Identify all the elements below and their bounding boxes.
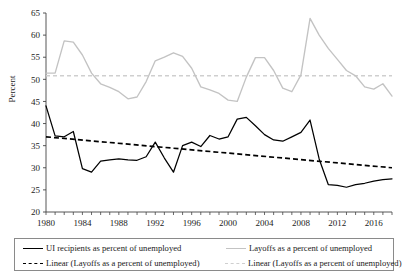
y-tick-label: 55 [31, 52, 41, 62]
legend-row-2: Linear (Layoffs as a percent of unemploy… [15, 256, 393, 271]
legend-row-1: UI recipients as percent of unemployed L… [15, 241, 393, 256]
legend-item-linear-layoffs: Linear (Layoffs as a percent of unemploy… [225, 259, 393, 268]
y-axis-title: Percent [7, 59, 17, 119]
legend-label-linear-ui: Linear (Layoffs as a percent of unemploy… [46, 259, 200, 268]
y-tick-label: 50 [31, 75, 41, 85]
chart-figure: Percent 65605550454035302520198019841988… [0, 0, 410, 277]
x-tick-label: 1984 [73, 218, 92, 228]
x-tick-label: 1988 [110, 218, 129, 228]
legend-label-linear-layoffs: Linear (Layoffs as a percent of unemploy… [248, 259, 402, 268]
x-tick-label: 2016 [365, 218, 384, 228]
y-tick-label: 60 [31, 30, 41, 40]
legend-swatch-solid-gray-icon [226, 248, 246, 249]
legend-label-layoffs: Layoffs as a percent of unemployed [249, 244, 372, 253]
x-tick-label: 2012 [328, 218, 346, 228]
legend-label-ui-recipients: UI recipients as percent of unemployed [46, 244, 181, 253]
y-tick-label: 35 [31, 141, 41, 151]
y-tick-label: 65 [31, 8, 41, 18]
y-tick-label: 20 [31, 207, 41, 217]
y-tick-label: 30 [31, 163, 41, 173]
y-tick-label: 45 [31, 97, 41, 107]
trendline-ui-recipients [46, 137, 392, 168]
line-chart: 6560555045403530252019801984198819921996… [0, 0, 410, 232]
y-tick-label: 25 [31, 185, 41, 195]
x-tick-label: 1996 [183, 218, 202, 228]
x-tick-label: 2008 [292, 218, 311, 228]
x-tick-label: 1980 [37, 218, 56, 228]
legend-swatch-dashed-black-icon [23, 263, 43, 264]
legend-swatch-dashed-gray-icon [225, 263, 245, 264]
series-line-layoffs [46, 18, 392, 101]
legend-item-ui-recipients: UI recipients as percent of unemployed [15, 244, 226, 253]
legend-item-layoffs: Layoffs as a percent of unemployed [226, 244, 393, 253]
legend-item-linear-ui: Linear (Layoffs as a percent of unemploy… [15, 259, 225, 268]
x-tick-label: 2000 [219, 218, 238, 228]
plot-area: Percent 65605550454035302520198019841988… [0, 0, 410, 232]
x-tick-label: 2004 [256, 218, 275, 228]
chart-legend: UI recipients as percent of unemployed L… [14, 238, 394, 271]
series-line-ui-recipients [46, 106, 392, 187]
x-tick-label: 1992 [146, 218, 164, 228]
y-tick-label: 40 [31, 119, 41, 129]
legend-swatch-solid-black-icon [23, 248, 43, 249]
